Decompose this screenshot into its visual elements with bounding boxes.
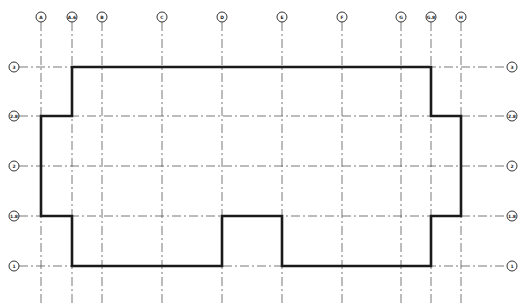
- floor-plan-canvas: AA.6BCDEFGG.8H 332.82.8221.81.811: [0, 0, 529, 303]
- grid-label: 3: [12, 65, 15, 70]
- grid-bubble-row-1-left: 1: [9, 261, 19, 271]
- grid-bubble-col-D: D: [217, 12, 227, 22]
- grid-bubble-col-F: F: [337, 12, 347, 22]
- grid-bubble-row-1.8-right: 1.8: [507, 211, 517, 221]
- grid-bubble-row-2-right: 2: [507, 161, 517, 171]
- grid-bubble-row-2.8-right: 2.8: [507, 111, 517, 121]
- grid-bubble-col-B: B: [97, 12, 107, 22]
- row-grid-bubbles: 332.82.8221.81.811: [9, 62, 517, 271]
- grid-bubble-row-2-left: 2: [9, 161, 19, 171]
- grid-label: A: [39, 15, 43, 20]
- grid-bubble-col-E: E: [277, 12, 287, 22]
- grid-label: D: [220, 15, 224, 20]
- grid-label: 2.8: [508, 114, 516, 119]
- grid-bubble-col-G.8: G.8: [426, 12, 436, 22]
- grid-label: 1: [12, 264, 15, 269]
- grid-label: 1: [510, 264, 513, 269]
- grid-label: 2: [510, 164, 513, 169]
- grid-bubble-row-1.8-left: 1.8: [9, 211, 19, 221]
- grid-label: E: [280, 15, 283, 20]
- grid-label: G.8: [427, 15, 436, 20]
- grid-label: 1.8: [10, 214, 18, 219]
- column-grid-bubbles: AA.6BCDEFGG.8H: [36, 12, 466, 22]
- grid-bubble-row-1-right: 1: [507, 261, 517, 271]
- grid-bubble-row-2.8-left: 2.8: [9, 111, 19, 121]
- building-outline: [41, 67, 461, 266]
- grid-bubble-row-3-left: 3: [9, 62, 19, 72]
- grid-label: 2: [12, 164, 15, 169]
- grid-label: H: [459, 15, 463, 20]
- grid-bubble-row-3-right: 3: [507, 62, 517, 72]
- grid-bubble-col-A: A: [36, 12, 46, 22]
- row-grid-lines: [19, 67, 507, 266]
- grid-label: 1.8: [508, 214, 516, 219]
- grid-label: F: [340, 15, 343, 20]
- grid-label: A.6: [68, 15, 76, 20]
- grid-label: 2.8: [10, 114, 18, 119]
- grid-bubble-col-C: C: [157, 12, 167, 22]
- grid-label: B: [100, 15, 104, 20]
- grid-bubble-col-G: G: [396, 12, 406, 22]
- grid-bubble-col-H: H: [456, 12, 466, 22]
- grid-label: G: [399, 15, 403, 20]
- grid-bubble-col-A.6: A.6: [67, 12, 77, 22]
- column-grid-lines: [41, 22, 461, 303]
- grid-label: 3: [510, 65, 513, 70]
